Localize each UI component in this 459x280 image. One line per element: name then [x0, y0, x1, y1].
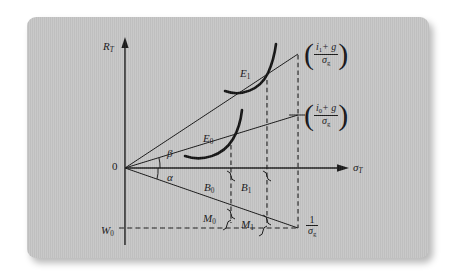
money-bracket-label-M0: M0: [203, 213, 216, 226]
angle-arc-alpha: [157, 168, 158, 179]
angle-label-alpha: α: [167, 172, 173, 183]
indifference-curve-E0: [185, 110, 242, 158]
equilibrium-label-E0: E0: [203, 133, 213, 146]
ray-endpoint-label-lower: ( i0+ g σg ): [304, 103, 348, 128]
y-axis-label: RT: [103, 41, 114, 54]
bond-bracket-label-B0: B0: [204, 182, 214, 195]
x-axis-label: σT: [353, 162, 362, 175]
wealth-label: W0: [101, 225, 114, 238]
figure-frame: RT σT 0 β α E0 E1 ( i1+ g σg ) ( i0+ g σ…: [27, 17, 429, 258]
equilibrium-label-E1: E1: [240, 68, 250, 81]
budget-ray-upper: [125, 54, 298, 168]
y-axis: [121, 37, 128, 245]
angle-arc-beta: [159, 158, 160, 168]
origin-label: 0: [112, 161, 118, 172]
bond-bracket-label-B1: B1: [241, 182, 251, 195]
x-axis: [125, 164, 349, 172]
angle-label-beta: β: [167, 148, 172, 159]
money-bracket-label-M1: M1: [241, 219, 254, 232]
diagram-canvas: [27, 17, 429, 258]
max-sigma-label: 1 σg: [306, 215, 318, 237]
ray-endpoint-label-upper: ( i1+ g σg ): [304, 42, 348, 67]
